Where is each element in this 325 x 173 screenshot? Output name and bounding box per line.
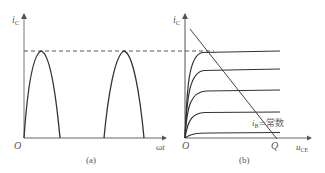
figure: iC O ωt (a) iC O Q uCE iB=常数 (b) xyxy=(0,0,325,173)
panel-b-y-label: iC xyxy=(173,14,181,27)
panel-b-origin-label: O xyxy=(182,140,189,151)
panel-b: iC O Q uCE iB=常数 (b) xyxy=(173,14,311,165)
panel-b-x-label: uCE xyxy=(296,142,309,153)
pulse-1 xyxy=(24,51,60,138)
ib-curve-1 xyxy=(185,133,280,139)
ib-constant-label: iB=常数 xyxy=(252,117,284,129)
panel-a-x-label: ωt xyxy=(156,142,165,152)
pulse-2 xyxy=(104,51,144,138)
panel-a-y-label: iC xyxy=(12,14,20,27)
panel-b-caption: (b) xyxy=(239,155,250,165)
q-point-label: Q xyxy=(271,140,279,151)
panel-a-origin-label: O xyxy=(14,140,21,151)
panel-a-caption: (a) xyxy=(86,155,96,165)
ib-curve-3 xyxy=(185,90,280,138)
